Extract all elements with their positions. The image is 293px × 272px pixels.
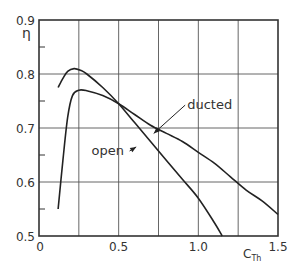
annotation-ducted: ducted <box>187 97 232 112</box>
arrowhead-icon <box>130 147 136 152</box>
x-tick-label: 1.5 <box>268 240 287 254</box>
y-tick-label: 0.6 <box>16 176 35 190</box>
x-tick-label: 0.5 <box>109 240 128 254</box>
annotation-open: open <box>92 143 124 158</box>
y-tick-label: 0.8 <box>16 68 35 82</box>
x-tick-label: 0 <box>36 240 44 254</box>
grid <box>39 20 278 236</box>
efficiency-chart: 0.50.60.70.80.900.51.01.5 ductedopen η C… <box>0 0 293 272</box>
y-tick-label: 0.7 <box>16 122 35 136</box>
x-tick-label: 1.0 <box>189 240 208 254</box>
y-tick-label: 0.5 <box>16 230 35 244</box>
axis-ticks: 0.50.60.70.80.900.51.01.5 <box>16 14 288 254</box>
y-axis-label: η <box>22 25 31 41</box>
x-axis-label: CTh <box>243 247 261 263</box>
